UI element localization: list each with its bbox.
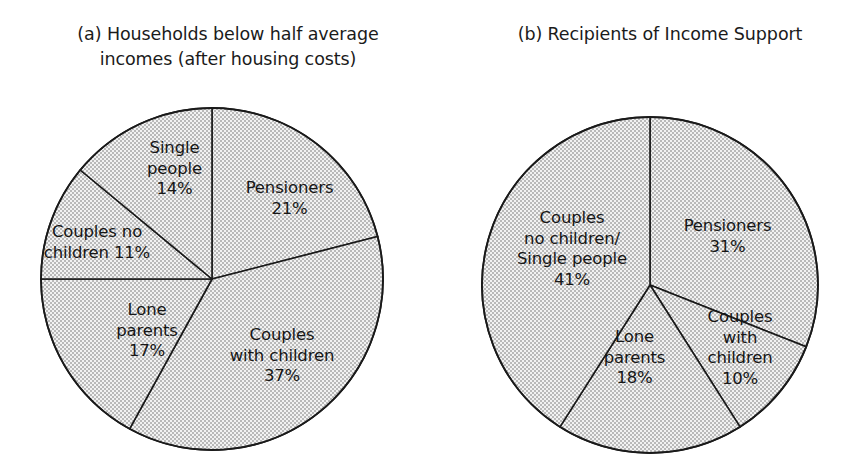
pie-chart-b xyxy=(482,117,818,453)
figure-canvas: (a) Households below half average income… xyxy=(0,0,853,470)
pie-chart-a xyxy=(41,108,383,450)
pie-charts-svg xyxy=(0,0,853,470)
